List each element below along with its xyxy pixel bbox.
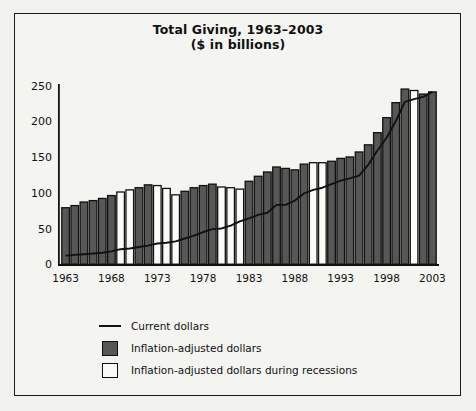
legend-label-recessions: Inflation-adjusted dollars during recess… (131, 364, 357, 376)
x-tick-1998: 1998 (373, 272, 400, 284)
y-tick-250: 250 (0, 79, 52, 92)
bar-1971 (135, 188, 143, 264)
bar-1968 (108, 196, 116, 265)
bar-2000 (401, 89, 409, 264)
legend-item-current-dollars: Current dollars (98, 316, 398, 336)
legend-item-recessions: Inflation-adjusted dollars during recess… (98, 360, 398, 380)
bar-1991 (319, 163, 327, 265)
bar-1978 (199, 186, 207, 265)
legend-label-current-dollars: Current dollars (131, 320, 209, 332)
bar-1973 (153, 186, 161, 265)
empty-box-swatch-icon (102, 363, 118, 378)
line-swatch-icon (98, 318, 122, 334)
x-tick-1978: 1978 (190, 272, 217, 284)
x-tick-1963: 1963 (52, 272, 79, 284)
y-tick-0: 0 (0, 258, 52, 271)
bar-2002 (419, 94, 427, 264)
bar-1988 (291, 170, 299, 264)
legend-item-inflation-adjusted: Inflation-adjusted dollars (98, 338, 398, 358)
bar-1982 (236, 189, 244, 264)
filled-box-swatch-icon (102, 341, 118, 356)
bar-1976 (181, 191, 189, 264)
bar-1994 (346, 157, 354, 264)
legend-label-inflation-adjusted: Inflation-adjusted dollars (131, 342, 262, 354)
bar-1967 (98, 198, 106, 264)
x-tick-1983: 1983 (236, 272, 263, 284)
bar-1979 (209, 184, 217, 264)
bar-1995 (355, 152, 363, 264)
y-axis-labels: 050100150200250 (0, 84, 52, 266)
bar-1974 (163, 188, 171, 264)
y-tick-150: 150 (0, 151, 52, 164)
chart-page: Total Giving, 1963–2003 ($ in billions) … (0, 0, 476, 411)
chart-title-line1: Total Giving, 1963–2003 (153, 22, 324, 37)
plot-area (58, 84, 439, 266)
chart-title: Total Giving, 1963–2003 ($ in billions) (0, 22, 476, 52)
bar-1997 (374, 133, 382, 265)
bar-1970 (126, 190, 134, 264)
bar-1989 (300, 164, 308, 264)
bar-1992 (328, 161, 336, 264)
chart-legend: Current dollars Inflation-adjusted dolla… (98, 316, 398, 382)
bar-1984 (254, 176, 262, 264)
x-axis-labels: 196319681973197819831988199319982003 (58, 272, 439, 288)
bars-group (62, 89, 436, 264)
bar-1996 (364, 145, 372, 264)
x-tick-1993: 1993 (327, 272, 354, 284)
bar-1980 (218, 187, 226, 264)
y-tick-50: 50 (0, 222, 52, 235)
chart-subtitle: ($ in billions) (0, 37, 476, 52)
chart-canvas (58, 84, 439, 266)
bar-1969 (117, 192, 125, 264)
bar-1983 (245, 181, 253, 264)
bar-1993 (337, 158, 345, 264)
bar-1986 (273, 167, 281, 264)
bar-1990 (309, 163, 317, 265)
bar-1977 (190, 188, 198, 264)
x-tick-1973: 1973 (144, 272, 171, 284)
bar-1975 (172, 195, 180, 264)
bar-1998 (383, 118, 391, 265)
bar-1972 (144, 185, 152, 264)
bar-1966 (89, 201, 97, 265)
x-tick-2003: 2003 (419, 272, 446, 284)
y-tick-100: 100 (0, 186, 52, 199)
bar-2001 (410, 91, 418, 265)
y-tick-200: 200 (0, 115, 52, 128)
x-tick-1988: 1988 (282, 272, 309, 284)
bar-2003 (429, 92, 437, 264)
bar-1987 (282, 168, 290, 264)
x-tick-1968: 1968 (98, 272, 125, 284)
bar-1985 (264, 172, 272, 264)
